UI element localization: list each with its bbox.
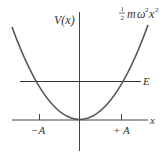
svg-text:2: 2: [155, 6, 159, 14]
svg-text:x: x: [148, 7, 155, 21]
tick-label-minus-a: −A: [31, 124, 45, 136]
svg-text:2: 2: [121, 14, 125, 22]
svg-text:m: m: [127, 7, 136, 21]
energy-label: E: [142, 75, 150, 87]
potential-formula: 1 2 m ω 2 x 2: [119, 5, 159, 22]
y-axis-label: V(x): [54, 13, 75, 27]
x-axis-label: x: [149, 114, 155, 126]
svg-text:1: 1: [121, 5, 125, 13]
tick-label-plus-a: + A: [113, 124, 130, 136]
harmonic-potential-diagram: V(x) 1 2 m ω 2 x 2 E x −A + A: [0, 0, 168, 154]
